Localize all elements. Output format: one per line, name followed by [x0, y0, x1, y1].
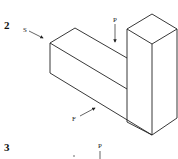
view-arrow-s: S — [23, 26, 43, 38]
arrow-s-icon — [29, 31, 43, 38]
figure-3-partial: P — [73, 142, 102, 159]
label-s: S — [23, 26, 27, 34]
arrow-f-icon — [80, 108, 95, 116]
view-arrow-f: F — [72, 108, 95, 123]
label-p-fig3: P — [98, 142, 102, 150]
view-arrow-p: P — [113, 16, 117, 42]
l-block — [50, 14, 177, 135]
label-f: F — [72, 115, 76, 123]
isometric-drawing: S P F P — [0, 0, 178, 159]
label-p: P — [113, 16, 117, 24]
